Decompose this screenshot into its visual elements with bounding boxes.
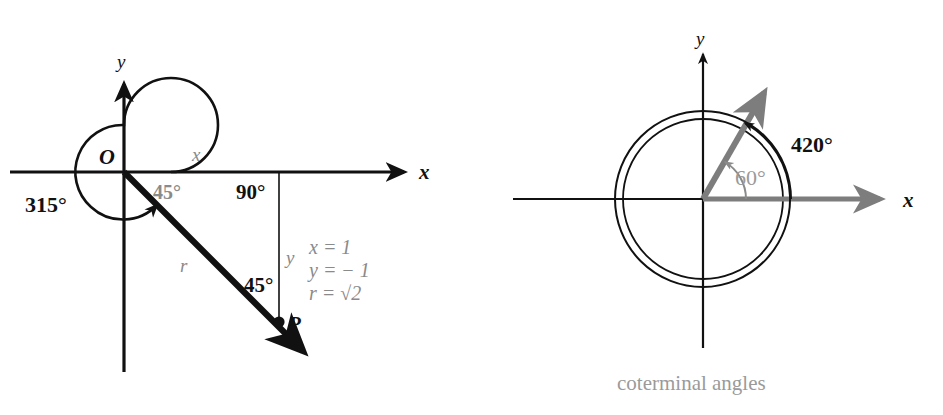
left-right-angle-label: 90° <box>236 180 265 204</box>
left-sweep-angle-label: 315° <box>25 192 67 217</box>
left-point-p <box>273 316 284 327</box>
left-value-x: x = 1 <box>308 236 351 258</box>
right-x-axis-label: x <box>902 188 914 212</box>
left-value-y: y = − 1 <box>307 259 370 282</box>
left-x-axis-label: x <box>418 160 430 184</box>
angle-315-diagram: O y x 315° 45° 90° 45° x y r P x = 1 y =… <box>10 51 430 372</box>
left-point-label: P <box>287 312 301 336</box>
right-caption: coterminal angles <box>617 371 766 395</box>
left-y-axis-label: y <box>115 51 126 72</box>
coterminal-angles-diagram: y x 60° 420° coterminal angles <box>513 28 914 395</box>
left-leg-x-label: x <box>191 144 201 165</box>
figure-root: O y x 315° 45° 90° 45° x y r P x = 1 y =… <box>0 0 943 415</box>
math-figure: O y x 315° 45° 90° 45° x y r P x = 1 y =… <box>0 0 943 415</box>
left-lower-angle-label: 45° <box>244 273 273 297</box>
left-leg-y-label: y <box>284 247 295 268</box>
right-y-axis-label: y <box>694 28 705 49</box>
right-inner-angle-label: 60° <box>735 165 766 190</box>
left-value-r: r = √2 <box>309 282 361 304</box>
left-reference-angle-label: 45° <box>153 181 181 203</box>
left-origin-label: O <box>99 144 115 169</box>
left-radius-label: r <box>180 255 188 276</box>
right-outer-angle-label: 420° <box>791 132 833 157</box>
